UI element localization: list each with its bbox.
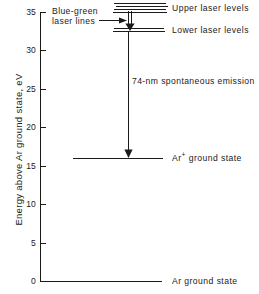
y-axis-tick-5 (40, 243, 46, 244)
lower-laser-level-line-2 (113, 31, 165, 32)
y-axis-tick-20 (40, 127, 46, 128)
y-axis-tick-label-35-wrap: 35 (14, 8, 36, 17)
ar-ground-state-label: Ar ground state (172, 277, 238, 286)
y-axis-tick-label-0-wrap: 0 (14, 277, 36, 286)
upper-laser-level-line-2 (116, 6, 168, 7)
y-axis-tick-label-35: 35 (14, 8, 36, 17)
y-axis-tick-15 (40, 166, 46, 167)
y-axis-tick-label-20-wrap: 20 (14, 123, 36, 132)
blue-green-leader-arrow (99, 17, 127, 23)
y-axis-tick-label-5: 5 (14, 239, 36, 248)
ar-ground-state-line (40, 281, 162, 282)
y-axis-tick-30 (40, 50, 46, 51)
y-axis-tick-label-30: 30 (14, 46, 36, 55)
y-axis-tick-label-0: 0 (14, 277, 36, 286)
y-axis-tick-label-25-wrap: 25 (14, 85, 36, 94)
lower-laser-levels-label: Lower laser levels (172, 26, 249, 35)
y-axis-tick-label-10: 10 (14, 200, 36, 209)
upper-laser-level-line-1 (114, 3, 166, 4)
ar-ion-ground-state-label-rest: ground state (186, 153, 242, 163)
y-axis-tick-label-15-wrap: 15 (14, 162, 36, 171)
y-axis-tick-label-25: 25 (14, 85, 36, 94)
y-axis-tick-label-30-wrap: 30 (14, 46, 36, 55)
upper-laser-level-line-4 (113, 12, 167, 13)
y-axis-tick-label-5-wrap: 5 (14, 239, 36, 248)
y-axis-tick-10 (40, 204, 46, 205)
ar-ion-ground-state-label: Ar+ ground state (172, 154, 242, 163)
ar-ion-ground-state-line (73, 158, 163, 159)
lower-laser-level-line-1 (114, 28, 164, 29)
spontaneous-emission-arrow (124, 32, 132, 158)
y-axis-tick-label-10-wrap: 10 (14, 200, 36, 209)
upper-laser-levels-label: Upper laser levels (172, 4, 249, 13)
spontaneous-emission-annotation: 74-nm spontaneous emission (132, 76, 255, 86)
blue-green-laser-lines-text-line-1: Blue-green (52, 6, 98, 16)
energy-level-diagram: Energy above Ar ground state, eV 35 30 2… (0, 0, 259, 294)
arrow-overlay (0, 0, 259, 294)
blue-green-laser-lines-annotation: Blue-green laser lines (52, 6, 98, 26)
y-axis-title: Energy above Ar ground state, eV (13, 35, 24, 265)
y-axis-tick-label-20: 20 (14, 123, 36, 132)
y-axis-tick-label-15: 15 (14, 162, 36, 171)
y-axis-tick-35 (40, 12, 46, 13)
y-axis-line (40, 12, 41, 282)
blue-green-laser-lines-text-line-2: laser lines (52, 16, 98, 26)
y-axis-tick-25 (40, 89, 46, 90)
ar-ion-ground-state-label-base: Ar (172, 153, 182, 163)
upper-laser-level-line-3 (114, 9, 166, 10)
